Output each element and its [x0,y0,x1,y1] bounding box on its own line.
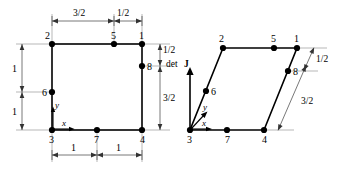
dim-par-upper-label: 1/2 [316,54,328,64]
node-3-dot [49,127,55,133]
node-6-dot-par [203,88,209,94]
node-5-dot-par [271,45,277,51]
node-2-dot [49,41,55,47]
node-6-dot [49,89,55,95]
dim-right-upper-arrow-top [158,44,163,50]
dim-bottom-right-arrow-start [97,153,103,158]
dim-left-upper-arrow-top [20,44,25,50]
left-top-dimensions: 3/2 1/2 [52,8,142,26]
node-5-label: 5 [111,30,116,41]
node-7-label-par: 7 [225,134,230,145]
node-4-label-par: 4 [262,134,267,145]
dim-top-left-arrow-end [108,19,114,24]
right-parallelogram-element: 2 5 1 8 4 7 3 6 det J y x 1/2 [166,33,328,145]
node-2-label: 2 [45,30,50,41]
dim-right-lower-arrow-top [158,66,163,72]
dim-top-right-arrow-start [114,19,120,24]
dim-top-right-label: 1/2 [117,8,129,18]
node-1-dot [139,41,145,47]
dim-right-upper-arrow-bot [158,60,163,66]
dim-left-lower-arrow-bot [20,124,25,130]
dim-right-lower-label: 3/2 [163,93,175,103]
node-3-label-par: 3 [187,134,192,145]
node-1-dot-par [294,45,300,51]
y-axis-label: y [54,100,59,110]
dim-right-lower-arrow-bot [158,124,163,130]
node-4-dot-par [261,127,267,133]
dim-bottom-right-label: 1 [116,142,121,153]
dim-top-left-label: 3/2 [73,8,85,18]
y-axis-label-par: y [202,102,207,112]
dim-bottom-right-arrow-end [136,153,142,158]
node-2-dot-par [220,45,226,51]
finite-element-diagram: 2 5 1 8 4 7 3 6 y x 3/2 1/2 [0,0,338,172]
left-right-dimensions: 1/2 3/2 [158,44,176,130]
detj-symbol: J [184,59,189,69]
dim-top-left-arrow-start [52,19,58,24]
dim-bottom-left-label: 1 [71,142,76,153]
node-7-dot-par [224,127,230,133]
node-1-label-par: 1 [294,33,299,44]
dim-bottom-left-arrow-start [52,153,58,158]
right-local-axes: y x [191,102,212,131]
dim-left-lower-label: 1 [12,106,17,117]
dim-top-right-arrow-end [136,19,142,24]
node-1-label: 1 [139,30,144,41]
left-side-dimensions: 1 1 [12,44,24,130]
node-7-label: 7 [94,134,99,145]
dim-left-upper-label: 1 [12,63,17,74]
right-par-dimensions: 1/2 3/2 [278,47,329,131]
node-8-dot [139,63,145,69]
node-5-dot [111,41,117,47]
left-extension-lines [16,14,170,162]
node-3-label: 3 [49,134,54,145]
x-axis-label-par: x [201,118,206,128]
node-8-dot-par [285,68,291,74]
node-5-label-par: 5 [271,33,276,44]
dim-right-upper-label: 1/2 [163,45,175,55]
detj-label: det [166,59,178,69]
node-6-label-par: 6 [211,86,216,97]
node-7-dot [94,127,100,133]
node-8-label-par: 8 [293,66,298,77]
node-4-dot [139,127,145,133]
node-4-label: 4 [140,134,145,145]
dim-par-lower-label: 3/2 [301,96,313,106]
dim-left-upper-arrow-bot [20,86,25,92]
dim-bottom-left-arrow-end [91,153,97,158]
x-axis-label: x [61,118,66,128]
node-2-label-par: 2 [219,33,224,44]
left-square-element: 2 5 1 8 4 7 3 6 y x 3/2 1/2 [12,8,175,162]
dim-left-lower-arrow-top [20,92,25,98]
node-6-label: 6 [42,87,47,98]
node-8-label: 8 [147,61,152,72]
left-local-axes: y x [51,100,75,131]
